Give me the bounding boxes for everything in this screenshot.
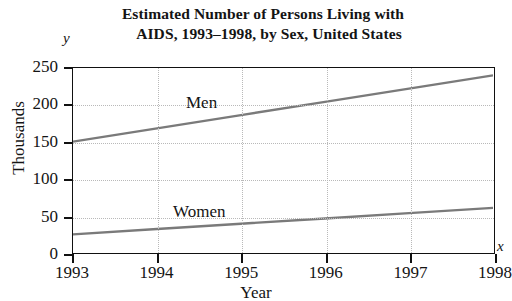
x-tick <box>157 254 159 263</box>
y-tick-label: 100 <box>6 170 58 187</box>
x-tick-label: 1998 <box>460 264 512 281</box>
x-tick <box>72 254 74 263</box>
series-line-men <box>73 75 493 141</box>
x-tick-label: 1993 <box>37 264 107 281</box>
x-axis-label: Year <box>196 283 316 301</box>
y-tick-label: 0 <box>6 245 58 262</box>
plot-area <box>72 67 495 254</box>
x-tick <box>495 254 497 263</box>
x-tick-label: 1994 <box>122 264 192 281</box>
chart-title: Estimated Number of Persons Living with … <box>0 4 512 44</box>
x-tick <box>410 254 412 263</box>
series-label-women: Women <box>173 203 225 220</box>
x-tick-label: 1996 <box>291 264 361 281</box>
chart-title-line1: Estimated Number of Persons Living with <box>0 4 512 24</box>
gridline-horizontal <box>73 218 494 219</box>
x-tick-label: 1997 <box>375 264 445 281</box>
gridline-horizontal <box>73 143 494 144</box>
series-label-men: Men <box>186 94 217 111</box>
gridline-horizontal <box>73 105 494 106</box>
x-tick <box>326 254 328 263</box>
x-tick <box>241 254 243 263</box>
gridline-horizontal <box>73 180 494 181</box>
y-axis-letter: y <box>63 30 70 47</box>
x-axis-letter: x <box>497 238 504 255</box>
y-tick-label: 200 <box>6 95 58 112</box>
chart-figure: Estimated Number of Persons Living with … <box>0 0 512 301</box>
gridline-vertical <box>242 68 243 253</box>
y-tick-label: 50 <box>6 208 58 225</box>
series-lines <box>73 68 493 252</box>
gridline-vertical <box>158 68 159 253</box>
y-tick-label: 250 <box>6 58 58 75</box>
series-line-women <box>73 208 493 234</box>
x-tick-label: 1995 <box>206 264 276 281</box>
y-tick-label: 150 <box>6 133 58 150</box>
chart-title-line2: AIDS, 1993–1998, by Sex, United States <box>0 24 512 44</box>
gridline-vertical <box>327 68 328 253</box>
gridline-vertical <box>411 68 412 253</box>
